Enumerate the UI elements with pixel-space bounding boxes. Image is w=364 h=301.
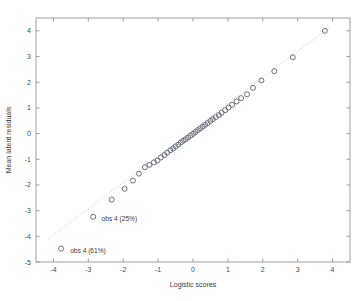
data-point bbox=[322, 28, 327, 33]
y-tick-label: -3 bbox=[25, 207, 31, 214]
data-point bbox=[251, 85, 256, 90]
x-tick-label: -4 bbox=[50, 266, 56, 273]
data-point bbox=[91, 214, 96, 219]
plot-frame bbox=[36, 18, 350, 262]
y-axis-ticks: 43210-1-2-3-4-5 bbox=[25, 27, 350, 265]
y-tick-label: 0 bbox=[27, 130, 31, 137]
data-point bbox=[245, 92, 250, 97]
x-tick-label: -1 bbox=[155, 266, 161, 273]
data-point bbox=[226, 105, 231, 110]
x-axis-ticks: -4-3-2-101234 bbox=[50, 18, 334, 273]
data-points bbox=[59, 28, 328, 251]
y-axis-label: Mean latent residuals bbox=[5, 106, 12, 173]
data-point bbox=[234, 99, 239, 104]
y-tick-label: 3 bbox=[27, 53, 31, 60]
data-point bbox=[158, 155, 163, 160]
axes-box bbox=[36, 18, 350, 262]
data-point bbox=[223, 108, 228, 113]
y-tick-label: 4 bbox=[27, 27, 31, 34]
data-point bbox=[290, 55, 295, 60]
annotation-label: obs 4 (25%) bbox=[102, 215, 138, 223]
x-tick-label: -2 bbox=[120, 266, 126, 273]
data-point bbox=[230, 102, 235, 107]
data-point bbox=[272, 69, 277, 74]
y-tick-label: 1 bbox=[27, 104, 31, 111]
data-point bbox=[109, 197, 114, 202]
data-point bbox=[136, 171, 141, 176]
y-tick-label: 2 bbox=[27, 79, 31, 86]
x-axis-label: Logistic scores bbox=[170, 281, 217, 289]
data-point bbox=[130, 178, 135, 183]
y-tick-label: -2 bbox=[25, 181, 31, 188]
x-tick-label: 2 bbox=[261, 266, 265, 273]
data-point bbox=[59, 246, 64, 251]
y-tick-label: -4 bbox=[25, 233, 31, 240]
qq-plot-figure: -4-3-2-101234 43210-1-2-3-4-5 obs 4 (25%… bbox=[0, 0, 364, 301]
x-tick-label: 3 bbox=[296, 266, 300, 273]
x-tick-label: -3 bbox=[85, 266, 91, 273]
data-point bbox=[122, 186, 127, 191]
plot-canvas: -4-3-2-101234 43210-1-2-3-4-5 obs 4 (25%… bbox=[0, 0, 364, 301]
y-tick-label: -1 bbox=[25, 156, 31, 163]
x-tick-label: 1 bbox=[226, 266, 230, 273]
reference-line bbox=[48, 26, 331, 238]
data-point bbox=[239, 96, 244, 101]
y-tick-label: -5 bbox=[25, 259, 31, 266]
x-tick-label: 4 bbox=[331, 266, 335, 273]
annotation-label: obs 4 (61%) bbox=[70, 247, 106, 255]
x-tick-label: 0 bbox=[191, 266, 195, 273]
identity-reference-line bbox=[48, 26, 331, 238]
point-annotations: obs 4 (25%)obs 4 (61%) bbox=[70, 215, 137, 255]
